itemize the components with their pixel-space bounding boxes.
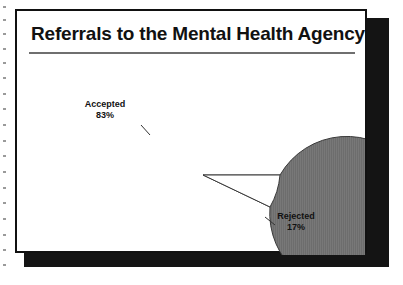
pie-label-accepted-value: 83% [72, 110, 138, 121]
title-underline-rule [29, 52, 355, 54]
pie-label-rejected: Rejected 17% [262, 211, 330, 233]
pie-slice-rejected [203, 175, 280, 207]
pie-label-accepted: Accepted 83% [72, 99, 138, 121]
pie-label-accepted-name: Accepted [72, 99, 138, 110]
pie-label-rejected-value: 17% [262, 222, 330, 233]
scan-edge-artifacts [0, 0, 12, 285]
leader-line-accepted [141, 125, 150, 135]
pie-slice-accepted [203, 136, 365, 255]
pie-chart: Accepted 83% Rejected 17% [17, 59, 365, 255]
slide-frame: Referrals to the Mental Health Agency Ac… [15, 9, 367, 253]
pie-label-rejected-name: Rejected [262, 211, 330, 222]
page-title: Referrals to the Mental Health Agency [31, 23, 353, 45]
